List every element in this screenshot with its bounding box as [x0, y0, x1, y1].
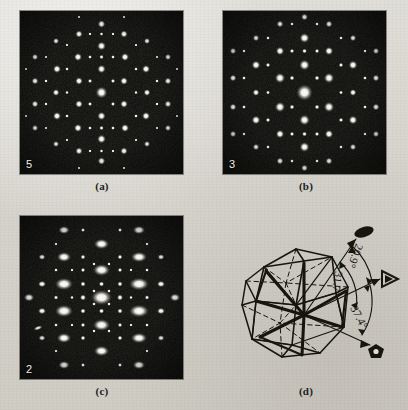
polyhedron-diagram: 20.9° 31.7° 37.4° [204, 205, 408, 410]
panel-caption-b: (b) [204, 180, 408, 192]
panel-caption-c: (c) [0, 385, 204, 397]
figure-grid: 5 (a) [0, 0, 408, 410]
diffraction-pattern-b [223, 11, 386, 174]
angle-label-37-4: 37.4° [348, 303, 370, 331]
diffraction-pattern-c [20, 216, 183, 379]
panel-c: 2 (c) [0, 205, 204, 410]
three-fold-axis-marker [382, 271, 398, 287]
panel-caption-d: (d) [204, 385, 408, 397]
panel-d: 20.9° 31.7° 37.4° (d) [204, 205, 408, 410]
plate-index-a: 5 [26, 158, 32, 170]
diffraction-plate-a: 5 [20, 11, 183, 174]
angle-label-20-9: 20.9° [346, 242, 366, 270]
diffraction-plate-c: 2 [20, 216, 183, 379]
plate-index-c: 2 [26, 363, 32, 375]
panel-b: 3 (b) [204, 0, 408, 205]
polyhedron-svg: 20.9° 31.7° 37.4° [204, 205, 408, 410]
two-fold-axis-marker [353, 224, 375, 240]
diffraction-plate-b: 3 [223, 11, 386, 174]
panel-caption-a: (a) [0, 180, 204, 192]
diffraction-pattern-a [20, 11, 183, 174]
plate-index-b: 3 [229, 158, 235, 170]
five-fold-axis-marker [368, 344, 384, 358]
panel-a: 5 (a) [0, 0, 204, 205]
